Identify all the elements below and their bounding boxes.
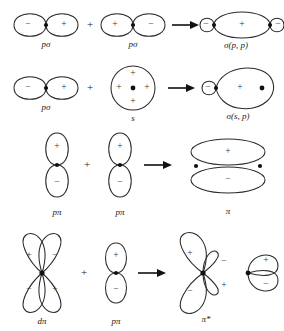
nucleus-dot — [118, 163, 122, 167]
lobe-sign-upper-left: + — [187, 248, 192, 258]
lobe-sign-left: + — [116, 82, 121, 92]
plus-operator: + — [81, 266, 87, 278]
lobe-right-large — [216, 68, 274, 109]
nucleus-dot-right — [268, 23, 272, 27]
lobe-sign-top: + — [225, 146, 230, 156]
plus-operator: + — [87, 18, 93, 30]
lobe-sign-top: + — [54, 141, 59, 151]
orbital-label: pσ — [41, 102, 52, 112]
reaction-arrow — [172, 21, 199, 29]
lobe-sign-right: + — [144, 82, 149, 92]
lobe-sign-top: + — [263, 255, 268, 265]
lobe-sign-upper-right: − — [221, 256, 226, 266]
lobe-sign-left: − — [25, 82, 30, 92]
nucleus-dot — [44, 86, 48, 90]
orbital-p-sigma-a: − + pσ — [14, 77, 78, 112]
orbital-d-pi: + − − + dπ — [23, 234, 61, 326]
lobe-sign-left: + — [112, 19, 117, 29]
molecular-orbital-diagram: − + pσ + + − pσ − + − — [0, 0, 284, 331]
orbital-sigma-p-p: − + − σ(p, p) — [200, 12, 284, 50]
orbital-label: pσ — [128, 39, 139, 49]
nucleus-dot — [200, 270, 205, 275]
nucleus-dot — [44, 23, 48, 27]
nucleus-dot-right — [258, 164, 262, 168]
lobe-sign-right: − — [148, 19, 153, 29]
orbital-label: dπ — [37, 316, 47, 326]
plus-operator: + — [87, 81, 93, 93]
orbital-p-sigma-a: − + pσ — [14, 14, 78, 49]
reaction-arrow — [144, 161, 172, 169]
lobe-sign-top: + — [113, 250, 118, 260]
row-pi: + − pπ + + − pπ + − π — [46, 133, 265, 217]
lobe-sign-right: + — [61, 82, 66, 92]
lobe-sign-bottom: − — [263, 279, 268, 289]
plus-operator: + — [84, 158, 90, 170]
lobe-sign-top: + — [117, 141, 122, 151]
orbital-p-pi-b: + − pπ — [109, 133, 132, 217]
lobe-sign-right: + — [61, 19, 66, 29]
lobe-upper-left-large — [180, 233, 206, 273]
orbital-pi: + − π — [191, 139, 265, 216]
lobe-sign-lower-left: − — [187, 286, 192, 296]
nucleus-dot — [114, 271, 118, 275]
lobe-sign-top: + — [130, 68, 135, 78]
lobe-sign-left: − — [203, 19, 208, 29]
row-pi-star: + − − + dπ + + − pπ + − − — [23, 233, 278, 326]
orbital-p-pi-b: + − pπ — [106, 243, 127, 326]
nucleus-dot — [246, 271, 251, 276]
nucleus-dot-left — [212, 23, 216, 27]
orbital-label: pπ — [110, 316, 121, 326]
orbital-sigma-s-p: − + σ(s, p) — [202, 68, 274, 121]
lobe-sign-bottom: − — [117, 177, 122, 187]
orbital-label: pσ — [41, 39, 52, 49]
lobe-lower-left-large — [180, 273, 206, 313]
orbital-label: π — [226, 206, 231, 216]
lobe-sign-bottom: + — [130, 96, 135, 106]
nucleus-dot-left — [194, 164, 198, 168]
orbital-label: s — [131, 113, 135, 123]
orbital-p-pi-a: + − pπ — [46, 133, 69, 217]
orbital-p-sigma-b: + − pσ — [101, 14, 165, 49]
lobe-sign-right: + — [237, 82, 242, 92]
orbital-label: σ(s, p) — [227, 111, 250, 121]
lobe-sign-right: − — [275, 19, 280, 29]
row-sigma-p-p: − + pσ + + − pσ − + − — [14, 12, 284, 50]
orbital-label: pπ — [114, 207, 125, 217]
orbital-pi-star: + − − + π* — [180, 233, 226, 324]
orbital-label: pπ — [51, 207, 62, 217]
nucleus-dot-right — [260, 86, 265, 91]
lobe-sign-upper-right: − — [52, 250, 57, 260]
lobe-sign-left: − — [25, 19, 30, 29]
nucleus-dot — [131, 23, 135, 27]
lobe-sign-bottom: − — [113, 284, 118, 294]
lobe-sign-lower-right: + — [52, 284, 57, 294]
lobe-sign-lower-right: + — [221, 280, 226, 290]
reaction-arrow — [168, 84, 195, 92]
nucleus-dot-left — [214, 86, 218, 90]
orbital-label: π* — [201, 314, 211, 324]
lobe-sign-bottom: − — [54, 177, 59, 187]
lobe-sign-lower-left: − — [26, 284, 31, 294]
orbital-label: σ(p, p) — [224, 40, 248, 50]
lobe-sign-upper-left: + — [26, 250, 31, 260]
row-sigma-s-p: − + pσ + + + + + s − + σ(s, p) — [14, 66, 274, 123]
reaction-arrow — [138, 269, 166, 277]
lobe-sign-center: + — [239, 19, 244, 29]
lobe-sign-bottom: − — [225, 174, 230, 184]
nucleus-dot — [55, 163, 59, 167]
lobe-sign-left: − — [205, 82, 210, 92]
nucleus-dot — [131, 86, 136, 91]
orbital-p-pi-right: + − — [246, 255, 278, 291]
orbital-s: + + + + s — [111, 66, 155, 123]
nucleus-dot — [39, 270, 44, 275]
